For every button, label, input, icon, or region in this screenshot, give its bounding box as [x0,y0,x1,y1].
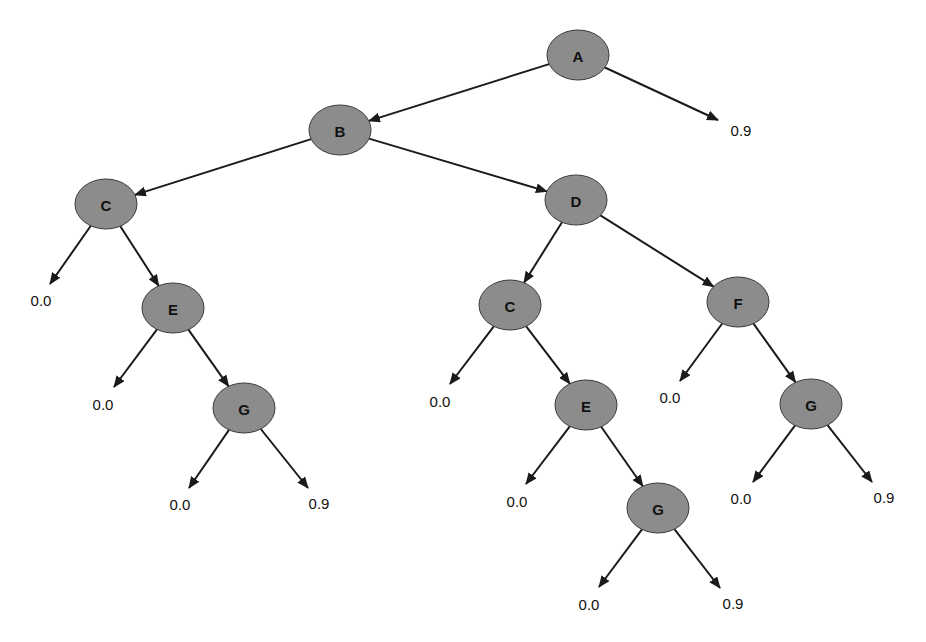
edge-f-to-g2 [754,324,796,383]
leaf-value-g3b: 0.9 [723,595,744,612]
edge-b-to-c1 [135,139,311,195]
leaf-value-a: 0.9 [731,122,752,139]
node-label: E [168,301,178,318]
edge-g3-to-l-g3a [599,529,642,587]
edge-c1-to-e1 [120,226,158,286]
tree-node-d: D [545,175,607,225]
tree-node-a: A [547,30,609,80]
decision-tree-diagram: ABCDEGCFEGG 0.90.00.00.00.90.00.00.00.90… [0,0,926,642]
node-label: D [571,193,582,210]
edge-g1-to-l-g1b [261,429,308,488]
node-label: G [238,401,250,418]
leaf-value-e2: 0.0 [507,493,528,510]
leaf-value-c2: 0.0 [430,393,451,410]
leaf-value-g3a: 0.0 [579,596,600,613]
edge-e2-to-g3 [601,427,643,486]
edge-f-to-l-f [680,324,722,382]
edge-d-to-f [600,215,713,286]
leaf-value-e1: 0.0 [93,396,114,413]
leaf-value-g2b: 0.9 [874,489,895,506]
edge-g2-to-l-g2a [753,425,795,482]
tree-node-f: F [707,277,769,327]
leaf-value-g2a: 0.0 [731,490,752,507]
node-label: B [335,123,346,140]
tree-node-g1: G [213,383,275,433]
node-label: E [581,398,591,415]
edge-d-to-c2 [524,222,562,282]
tree-node-g3: G [627,483,689,533]
leaf-value-f: 0.0 [660,389,681,406]
tree-node-b: B [309,105,371,155]
tree-node-g2: G [780,379,842,429]
tree-node-e1: E [142,283,204,333]
edge-g3-to-l-g3b [674,529,720,588]
edge-a-to-b [369,64,549,121]
node-label: C [101,197,112,214]
node-label: G [805,397,817,414]
leaf-value-g1b: 0.9 [309,495,330,512]
node-label: F [733,295,742,312]
node-label: C [505,298,516,315]
tree-node-e2: E [555,380,617,430]
edge-e1-to-l-e1 [114,329,157,387]
tree-node-c1: C [75,179,137,229]
edge-c1-to-l-c1 [50,226,91,284]
leaf-value-c1: 0.0 [31,292,52,309]
node-label: A [573,48,584,65]
edge-g1-to-l-g1a [189,430,229,488]
edge-c2-to-e2 [526,326,570,383]
nodes-layer: ABCDEGCFEGG [75,30,842,533]
edge-e2-to-l-e2 [526,426,570,484]
edge-g2-to-l-g2b [828,425,873,482]
node-label: G [652,501,664,518]
edge-e1-to-g1 [188,330,228,387]
edge-b-to-d [369,139,547,192]
edge-a-to-l-a [605,68,718,121]
edge-c2-to-l-c2 [450,326,494,384]
tree-node-c2: C [479,280,541,330]
leaf-value-g1a: 0.0 [170,496,191,513]
